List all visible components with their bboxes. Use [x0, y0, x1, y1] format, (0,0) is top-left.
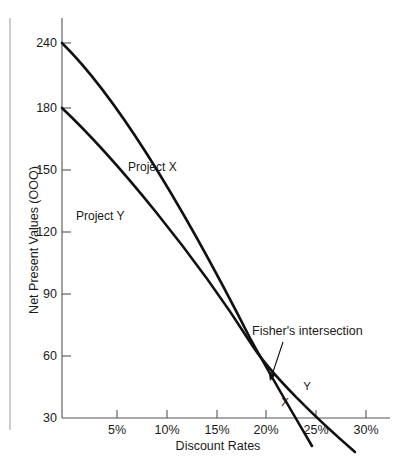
curve-project-x — [62, 43, 312, 446]
marker-label-y: Y — [303, 380, 311, 392]
marker-label-x: X — [281, 396, 289, 408]
x-tick-label-20: 20% — [253, 423, 278, 437]
y-tick-label-30: 30 — [43, 411, 57, 425]
y-axis-ticks — [62, 43, 71, 356]
y-tick-label-240: 240 — [36, 36, 57, 50]
y-tick-label-90: 90 — [43, 287, 57, 301]
x-tick-label-5: 5% — [108, 423, 126, 437]
x-axis-title: Discount Rates — [176, 439, 261, 453]
y-axis-title: Net Present Values (OOO) — [27, 166, 41, 314]
npv-discount-rate-chart: 240 180 150 120 90 60 30 5% 10% 15% 20% … — [0, 0, 401, 476]
x-axis-ticks — [117, 410, 366, 418]
series-label-project-x: Project X — [128, 160, 177, 174]
y-tick-label-180: 180 — [36, 101, 57, 115]
annotation-leader-line — [272, 342, 283, 375]
series-label-project-y: Project Y — [76, 209, 124, 223]
curve-project-y — [62, 108, 355, 452]
chart-canvas: 240 180 150 120 90 60 30 5% 10% 15% 20% … — [0, 0, 401, 476]
annotation-fishers-intersection: Fisher's intersection — [252, 324, 363, 338]
x-tick-label-10: 10% — [154, 423, 179, 437]
y-tick-label-60: 60 — [43, 349, 57, 363]
x-tick-label-15: 15% — [204, 423, 229, 437]
x-tick-label-30: 30% — [353, 423, 378, 437]
